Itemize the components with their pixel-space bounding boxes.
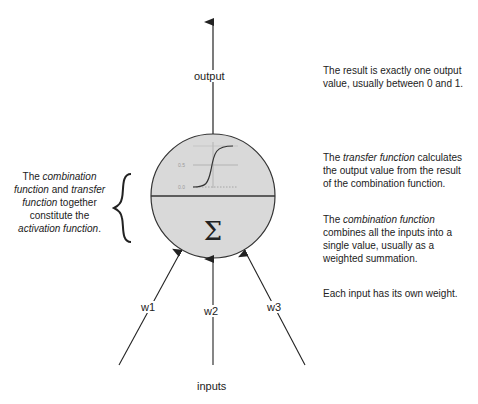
output-label: output (193, 70, 226, 82)
note-activation-e3: activation function (18, 223, 98, 234)
note-combination-post: combines all the inputs into a single va… (323, 227, 452, 264)
note-activation: The combination function and transfer fu… (12, 170, 107, 235)
note-combination-em: combination function (343, 214, 435, 225)
note-output: The result is exactly one output value, … (323, 64, 473, 90)
weight-label-w2: w2 (203, 305, 219, 317)
note-activation-t2: and (49, 184, 71, 195)
note-transfer: The transfer function calculates the out… (323, 151, 468, 190)
weight-label-w3: w3 (266, 301, 282, 313)
note-combination-pre: The (323, 214, 343, 225)
note-weights: Each input has its own weight. (323, 287, 478, 300)
note-activation-t4: . (98, 223, 101, 234)
weight-label-w1: w1 (140, 301, 156, 313)
graph-tick-label: 0.0 (178, 184, 185, 190)
note-transfer-em: transfer function (343, 152, 415, 163)
graph-tick-label: 0.5 (178, 162, 185, 168)
activation-brace (114, 174, 131, 242)
note-combination: The combination function combines all th… (323, 213, 473, 265)
note-transfer-pre: The (323, 152, 343, 163)
inputs-label: inputs (196, 380, 227, 392)
note-activation-t1: The (23, 171, 43, 182)
summation-symbol: Σ (204, 216, 222, 246)
